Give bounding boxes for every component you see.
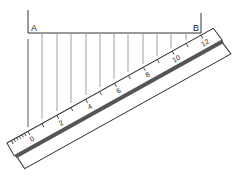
diagram-canvas: A B: [0, 0, 233, 176]
ruler: 0 2 4 6 8 10 12: [7, 27, 231, 170]
line-ab: [28, 10, 201, 33]
point-b-label: B: [193, 23, 199, 33]
ruler-stripe: [15, 40, 224, 159]
point-a-label: A: [31, 23, 37, 33]
